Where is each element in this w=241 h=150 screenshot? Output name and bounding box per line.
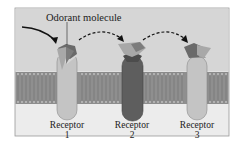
lipid-head bbox=[224, 100, 227, 103]
lipid-head bbox=[28, 72, 31, 75]
lipid-head bbox=[212, 100, 215, 103]
receptor-3-label: Receptor bbox=[180, 120, 215, 130]
lipid-head bbox=[176, 100, 179, 103]
lipid-head bbox=[92, 72, 95, 75]
lipid-head bbox=[108, 72, 111, 75]
lipid-head bbox=[152, 100, 155, 103]
lipid-head bbox=[100, 72, 103, 75]
lipid-head bbox=[80, 72, 83, 75]
lipid-head bbox=[224, 72, 227, 75]
lipid-head bbox=[16, 100, 19, 103]
receptor-1 bbox=[57, 44, 77, 120]
lipid-head bbox=[168, 72, 171, 75]
lipid-head bbox=[172, 72, 175, 75]
lipid-head bbox=[24, 100, 27, 103]
lipid-head bbox=[216, 100, 219, 103]
lipid-head bbox=[88, 100, 91, 103]
lipid-head bbox=[100, 100, 103, 103]
receptor-2-number: 2 bbox=[130, 130, 135, 140]
lipid-head bbox=[36, 72, 39, 75]
lipid-head bbox=[32, 100, 35, 103]
lipid-head bbox=[44, 72, 47, 75]
lipid-head bbox=[144, 72, 147, 75]
lipid-head bbox=[220, 72, 223, 75]
lipid-head bbox=[208, 100, 211, 103]
lipid-head bbox=[28, 100, 31, 103]
lipid-head bbox=[32, 72, 35, 75]
lipid-head bbox=[52, 72, 55, 75]
lipid-head bbox=[24, 72, 27, 75]
lipid-head bbox=[48, 72, 51, 75]
lipid-head bbox=[212, 72, 215, 75]
receptor-2-label: Receptor bbox=[115, 120, 150, 130]
lipid-head bbox=[160, 72, 163, 75]
lipid-head bbox=[104, 72, 107, 75]
lipid-head bbox=[16, 72, 19, 75]
lipid-head bbox=[208, 72, 211, 75]
lipid-head bbox=[180, 100, 183, 103]
lipid-head bbox=[116, 100, 119, 103]
lipid-head bbox=[40, 100, 43, 103]
lipid-head bbox=[112, 100, 115, 103]
lipid-head bbox=[220, 100, 223, 103]
lipid-head bbox=[104, 100, 107, 103]
lipid-head bbox=[116, 72, 119, 75]
odorant-receptor-diagram: Odorant molecule Receptor 1 Receptor 2 R… bbox=[0, 0, 241, 150]
lipid-head bbox=[96, 100, 99, 103]
receptor-3-number: 3 bbox=[195, 130, 200, 140]
lipid-head bbox=[168, 100, 171, 103]
lipid-head bbox=[40, 72, 43, 75]
lipid-head bbox=[148, 100, 151, 103]
lipid-head bbox=[216, 72, 219, 75]
lipid-head bbox=[176, 72, 179, 75]
receptor-1-number: 1 bbox=[65, 130, 70, 140]
lipid-head bbox=[20, 72, 23, 75]
lipid-head bbox=[172, 100, 175, 103]
lipid-head bbox=[112, 72, 115, 75]
lipid-head bbox=[108, 100, 111, 103]
lipid-head bbox=[156, 72, 159, 75]
lipid-head bbox=[180, 72, 183, 75]
receptor-1-label: Receptor bbox=[50, 120, 85, 130]
lipid-head bbox=[84, 72, 87, 75]
lipid-head bbox=[36, 100, 39, 103]
lipid-head bbox=[156, 100, 159, 103]
lipid-head bbox=[148, 72, 151, 75]
lipid-head bbox=[48, 100, 51, 103]
lipid-head bbox=[144, 100, 147, 103]
lipid-head bbox=[164, 100, 167, 103]
lipid-head bbox=[152, 72, 155, 75]
lipid-head bbox=[164, 72, 167, 75]
lipid-head bbox=[52, 100, 55, 103]
lipid-head bbox=[160, 100, 163, 103]
lipid-head bbox=[80, 100, 83, 103]
odorant-molecule-label: Odorant molecule bbox=[46, 12, 122, 23]
lipid-head bbox=[44, 100, 47, 103]
lipid-head bbox=[96, 72, 99, 75]
lipid-head bbox=[88, 72, 91, 75]
lipid-head bbox=[92, 100, 95, 103]
lipid-head bbox=[84, 100, 87, 103]
lipid-head bbox=[20, 100, 23, 103]
